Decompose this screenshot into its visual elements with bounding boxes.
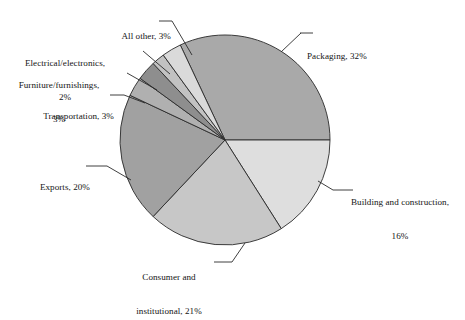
pie-label-electrical-line2: 2% <box>0 92 130 103</box>
pie-label-building-line2: 16% <box>337 231 463 242</box>
pie-label-packaging-line1: Packaging, 32% <box>307 51 367 62</box>
pie-slice-group <box>120 35 330 245</box>
pie-label-consumer-and-institutional: Consumer and institutional, 21% <box>108 250 230 320</box>
pie-label-all-other: All other, 3% <box>76 9 171 65</box>
leader-line-consumer <box>232 243 245 262</box>
pie-label-exports-line1: Exports, 20% <box>0 182 90 193</box>
leader-line-building <box>318 181 333 190</box>
pie-label-consumer-line1: Consumer and <box>108 272 230 283</box>
pie-label-building-and-construction: Building and construction, 16% <box>337 175 463 265</box>
pie-label-allother-line1: All other, 3% <box>76 31 171 42</box>
pie-label-exports: Exports, 20% <box>0 160 90 216</box>
pie-label-consumer-line2: institutional, 21% <box>108 306 230 317</box>
pie-label-building-line1: Building and construction, <box>337 197 463 208</box>
pie-label-packaging: Packaging, 32% <box>307 29 367 85</box>
leader-line-packaging-2 <box>281 33 301 52</box>
